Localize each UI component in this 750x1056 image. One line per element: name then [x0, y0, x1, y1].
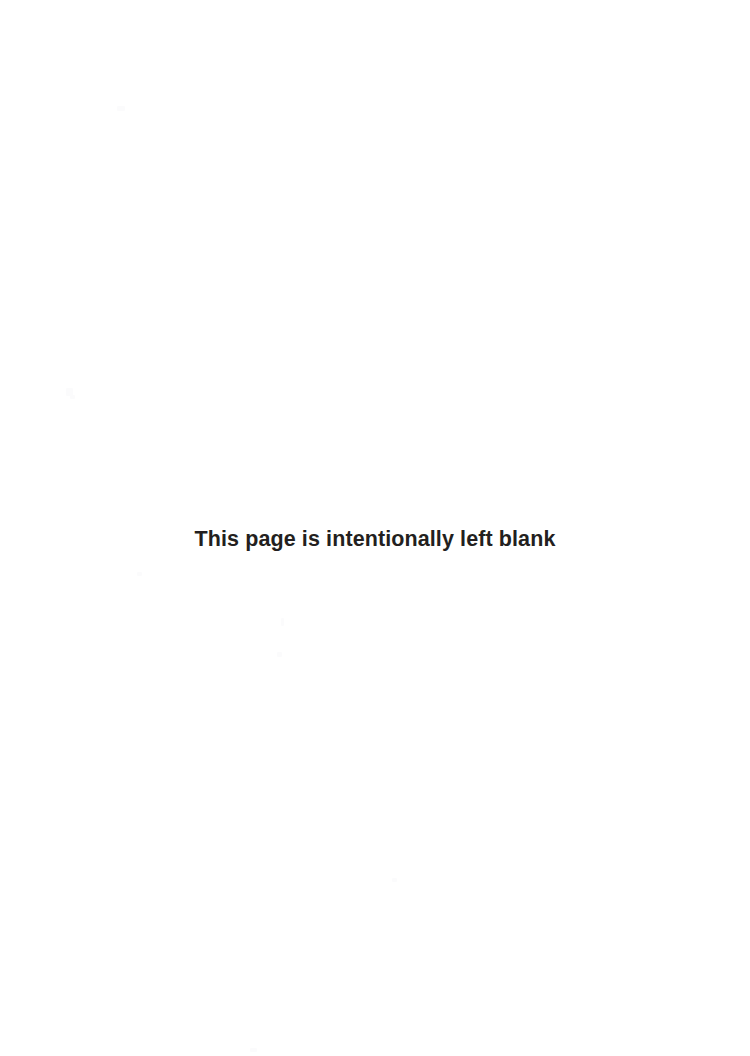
scan-speckle-icon [392, 878, 397, 882]
scan-speckle-icon [250, 1048, 257, 1052]
scan-speckle-icon [277, 652, 282, 657]
scan-speckle-icon [70, 395, 75, 399]
scan-speckle-icon [137, 572, 142, 576]
blank-page-notice: This page is intentionally left blank [0, 525, 750, 553]
scan-speckle-icon [281, 618, 284, 626]
scan-speckle-icon [66, 388, 73, 396]
scan-speckle-icon [117, 106, 125, 111]
document-page: This page is intentionally left blank [0, 0, 750, 1056]
